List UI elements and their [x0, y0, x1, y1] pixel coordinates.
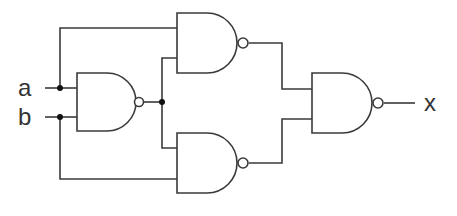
- wire-gate2-to-gate4: [249, 43, 312, 89]
- input-label-b: b: [18, 103, 31, 130]
- nand-gate-4: [312, 73, 383, 133]
- junction-dot-a: [57, 85, 63, 91]
- logic-circuit-diagram: a b x: [0, 0, 457, 216]
- input-label-a: a: [18, 74, 32, 101]
- junction-dot-gate1-out: [159, 99, 165, 105]
- nand-gate-3: [177, 133, 248, 193]
- junction-dot-b: [57, 114, 63, 120]
- output-label-x: x: [424, 89, 436, 116]
- nand-gate-1: [77, 73, 144, 131]
- nand-gate-2: [177, 13, 248, 73]
- wire-gate3-to-gate4: [249, 119, 312, 163]
